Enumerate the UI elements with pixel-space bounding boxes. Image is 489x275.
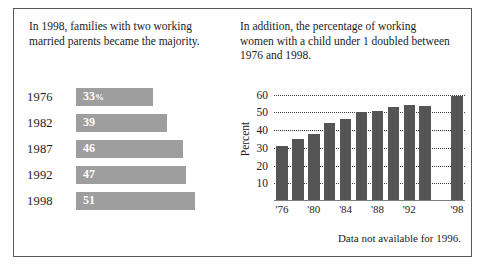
- bar-category-label: 1992: [27, 168, 71, 183]
- bar: [404, 105, 415, 201]
- bar-row: 199247: [14, 165, 226, 191]
- bar-value-label: 39: [83, 115, 95, 130]
- bar: [372, 111, 383, 201]
- y-axis-tick-label: 10: [242, 177, 268, 189]
- bar-value-label: 46: [83, 141, 95, 156]
- bar-fill: 39: [76, 114, 167, 132]
- right-panel-heading: In addition, the percentage of working w…: [240, 19, 450, 63]
- bar: [324, 123, 335, 201]
- bar-value-label: 47: [83, 167, 95, 182]
- x-axis-line: [274, 200, 465, 201]
- bar: [340, 119, 351, 202]
- plot-area: [274, 91, 465, 201]
- bar: [451, 96, 462, 201]
- bar-track: 47: [76, 166, 216, 184]
- bar-fill: 33%: [76, 88, 153, 106]
- bar-track: 46: [76, 140, 216, 158]
- horizontal-bar-chart: 197633%198239198746199247199851: [14, 87, 226, 217]
- x-axis-tick-label: '92: [403, 203, 416, 215]
- x-axis-ticks: '76'80'84'88'92'98: [274, 203, 465, 217]
- bar: [292, 139, 303, 201]
- bar-fill: 51: [76, 192, 195, 210]
- bar-row: 197633%: [14, 87, 226, 113]
- bar-track: 51: [76, 192, 216, 210]
- bar-value-label: 33%: [83, 89, 104, 104]
- bar: [356, 112, 367, 201]
- bar-fill: 46: [76, 140, 183, 158]
- y-axis-tick-label: 60: [242, 89, 268, 101]
- bar-category-label: 1976: [27, 90, 71, 105]
- right-panel: In addition, the percentage of working w…: [232, 9, 471, 256]
- y-axis-tick-label: 20: [242, 160, 268, 172]
- bar-category-label: 1987: [27, 142, 71, 157]
- x-axis-tick-label: '80: [307, 203, 320, 215]
- bar-category-label: 1998: [27, 194, 71, 209]
- y-axis-tick-label: 30: [242, 142, 268, 154]
- bar-row: 198746: [14, 139, 226, 165]
- bar-category-label: 1982: [27, 116, 71, 131]
- bar-track: 39: [76, 114, 216, 132]
- x-axis-tick-label: '98: [451, 203, 464, 215]
- bar: [388, 107, 399, 201]
- bar-track: 33%: [76, 88, 216, 106]
- bar-fill: 47: [76, 166, 186, 184]
- bar: [308, 134, 319, 201]
- y-axis-tick-label: 50: [242, 106, 268, 118]
- y-axis-tick-label: 40: [242, 124, 268, 136]
- figure-container: In 1998, families with two working marri…: [0, 0, 489, 275]
- footnote: Data not available for 1996.: [338, 232, 461, 244]
- bar-row: 199851: [14, 191, 226, 217]
- bar-value-label: 51: [83, 193, 95, 208]
- left-panel: In 1998, families with two working marri…: [14, 9, 226, 256]
- left-panel-heading: In 1998, families with two working marri…: [29, 19, 219, 48]
- bar: [419, 106, 430, 201]
- vertical-bar-chart: Percent 102030405060 '76'80'84'88'92'98: [232, 89, 471, 219]
- bar-row: 198239: [14, 113, 226, 139]
- x-axis-tick-label: '88: [371, 203, 384, 215]
- x-axis-tick-label: '76: [275, 203, 288, 215]
- x-axis-tick-label: '84: [339, 203, 352, 215]
- bar: [276, 146, 287, 201]
